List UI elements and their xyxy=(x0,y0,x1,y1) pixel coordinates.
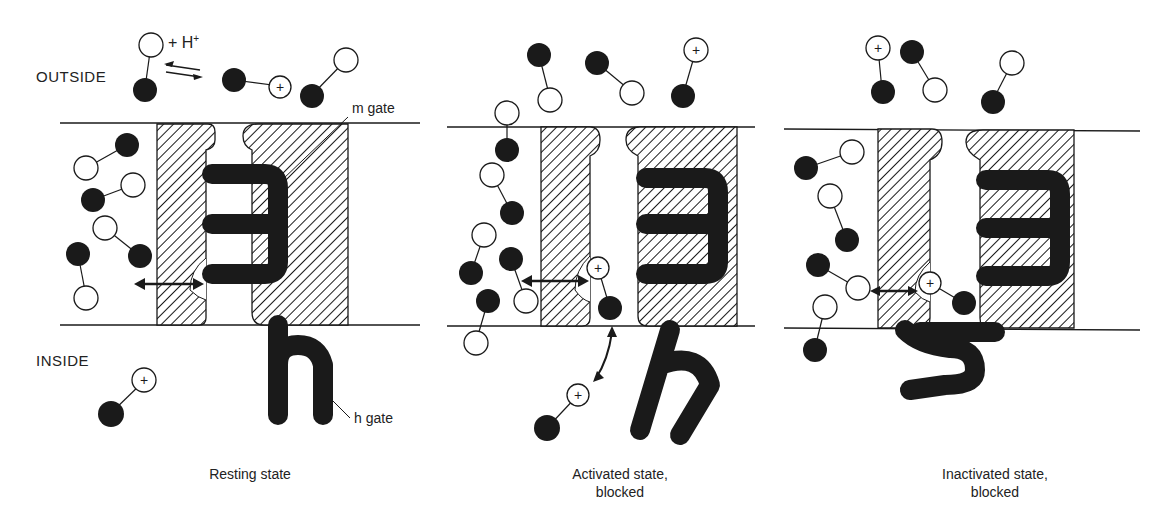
sodium-channel-diagram: + + xyxy=(0,0,1167,523)
membrane-top-line xyxy=(784,129,1140,131)
molecule-charged: + xyxy=(534,384,589,441)
svg-text:+: + xyxy=(276,79,284,95)
svg-text:+: + xyxy=(574,387,582,403)
channel-wall-left xyxy=(541,127,600,326)
outside-molecules: + xyxy=(866,36,1024,114)
molecule-neutral xyxy=(300,48,358,108)
channel-wall-left xyxy=(878,129,942,328)
inside-label: INSIDE xyxy=(36,352,89,369)
outside-molecules: + xyxy=(527,38,708,112)
h-gate-label: h gate xyxy=(354,410,393,426)
h-gate-closed xyxy=(905,330,995,390)
svg-text:+: + xyxy=(140,372,148,388)
svg-text:+: + xyxy=(926,275,934,291)
curved-double-arrow xyxy=(596,332,612,378)
m-gate-label: m gate xyxy=(352,100,395,116)
panel-resting: + + xyxy=(60,33,420,427)
svg-text:+: + xyxy=(692,42,700,58)
svg-text:+: + xyxy=(594,260,602,276)
caption-inactivated: Inactivated state, blocked xyxy=(905,465,1085,501)
caption-activated: Activated state, blocked xyxy=(530,465,710,501)
h-gate xyxy=(278,325,323,415)
outside-label: OUTSIDE xyxy=(36,68,106,85)
molecule-neutral xyxy=(133,33,163,102)
molecule-charged: + xyxy=(98,368,156,427)
panel-activated: + + + xyxy=(447,38,755,441)
membrane-molecules xyxy=(459,101,538,355)
svg-text:+: + xyxy=(874,40,882,56)
panel-inactivated: + + xyxy=(784,36,1140,390)
molecule-charged: + xyxy=(222,68,291,98)
m-gate xyxy=(212,174,278,274)
molecule-charged-bound: + xyxy=(587,257,622,320)
h-gate xyxy=(640,330,710,435)
caption-resting: Resting state xyxy=(180,465,320,483)
proton-label: + H+ xyxy=(168,33,199,52)
equilibrium-arrows-icon xyxy=(164,61,203,80)
